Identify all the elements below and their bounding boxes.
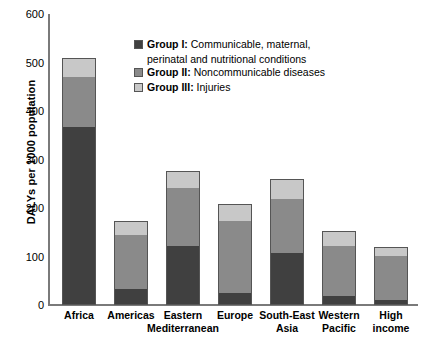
bar-group (166, 171, 200, 305)
stacked-bar[interactable] (322, 231, 356, 305)
bar-segment-group-i[interactable] (115, 289, 147, 304)
bar-group (114, 221, 148, 305)
legend-label: Group I: Communicable, maternal, (147, 38, 310, 52)
legend-swatch-icon (134, 40, 143, 49)
legend-series-desc: Noncommunicable diseases (191, 66, 325, 78)
chart-legend: Group I: Communicable, maternal,perinata… (134, 38, 325, 95)
chart-container: DALYs per 1000 population 01002003004005… (0, 0, 423, 343)
x-axis-label-high-income: High income (351, 309, 423, 334)
bar-segment-group-iii[interactable] (115, 222, 147, 235)
bar-segment-group-i[interactable] (323, 296, 355, 304)
bar-segment-group-ii[interactable] (323, 246, 355, 296)
stacked-bar[interactable] (114, 221, 148, 305)
y-axis-tick-600: 600 (26, 8, 44, 20)
bar-segment-group-ii[interactable] (219, 221, 251, 293)
legend-series-desc-continued: perinatal and nutritional conditions (147, 53, 325, 67)
y-axis-tick-400: 400 (26, 105, 44, 117)
legend-item[interactable]: Group II: Noncommunicable diseases (134, 66, 325, 80)
bar-segment-group-ii[interactable] (167, 188, 199, 246)
y-axis-tick-100: 100 (26, 251, 44, 263)
bar-group (62, 58, 96, 305)
legend-series-desc: Communicable, maternal, (188, 38, 311, 50)
legend-item[interactable]: Group I: Communicable, maternal, (134, 38, 325, 52)
y-axis-tick-200: 200 (26, 202, 44, 214)
legend-swatch-icon (134, 68, 143, 77)
legend-swatch-icon (134, 83, 143, 92)
bar-group (270, 179, 304, 305)
legend-series-name: Group III: (147, 81, 194, 93)
legend-series-name: Group I: (147, 38, 188, 50)
stacked-bar[interactable] (374, 247, 408, 305)
bar-segment-group-iii[interactable] (323, 232, 355, 246)
bar-segment-group-iii[interactable] (375, 248, 407, 256)
stacked-bar[interactable] (270, 179, 304, 305)
bar-group (322, 231, 356, 305)
bar-segment-group-ii[interactable] (271, 199, 303, 254)
bar-segment-group-i[interactable] (167, 246, 199, 304)
stacked-bar[interactable] (62, 58, 96, 305)
bar-group (374, 247, 408, 305)
bar-segment-group-iii[interactable] (271, 180, 303, 199)
bar-segment-group-iii[interactable] (219, 205, 251, 221)
bar-segment-group-i[interactable] (219, 293, 251, 304)
bar-segment-group-i[interactable] (271, 253, 303, 304)
legend-item[interactable]: Group III: Injuries (134, 81, 325, 95)
bar-segment-group-ii[interactable] (375, 256, 407, 300)
legend-series-desc: Injuries (194, 81, 231, 93)
bar-segment-group-i[interactable] (375, 300, 407, 304)
legend-label: Group III: Injuries (147, 81, 230, 95)
bar-segment-group-ii[interactable] (115, 235, 147, 289)
y-axis-tick-labels: 0100200300400500600 (0, 0, 44, 343)
y-axis-tick-500: 500 (26, 57, 44, 69)
stacked-bar[interactable] (218, 204, 252, 305)
bar-segment-group-iii[interactable] (63, 59, 95, 77)
bar-segment-group-iii[interactable] (167, 172, 199, 189)
bar-group (218, 204, 252, 305)
legend-series-name: Group II: (147, 66, 191, 78)
stacked-bar[interactable] (166, 171, 200, 305)
bar-segment-group-i[interactable] (63, 127, 95, 304)
bar-segment-group-ii[interactable] (63, 77, 95, 127)
legend-label: Group II: Noncommunicable diseases (147, 66, 325, 80)
y-axis-tick-300: 300 (26, 154, 44, 166)
